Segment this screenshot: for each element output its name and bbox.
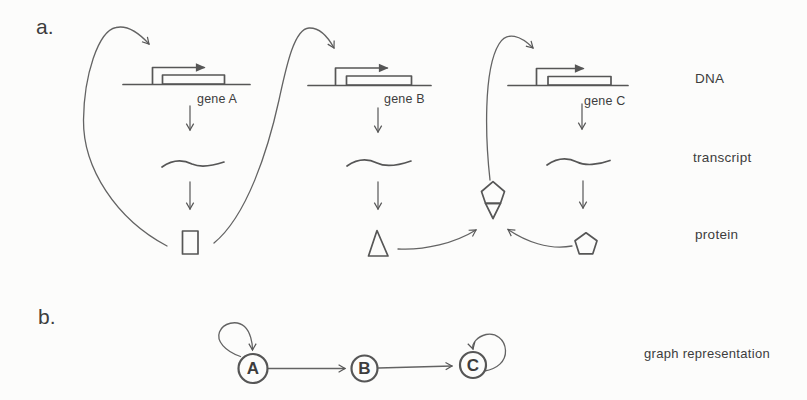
- gene-b-label: gene B: [384, 93, 425, 106]
- panel-b-label: b.: [38, 306, 56, 327]
- complex-triangle-shape: [486, 203, 501, 218]
- protein-b-shape: [369, 231, 389, 257]
- protein-a-to-gene-a-arrow: [83, 27, 167, 246]
- gene-b-box: [347, 76, 412, 85]
- row-label-dna: DNA: [695, 72, 724, 86]
- diagram-canvas: [0, 0, 807, 400]
- gene-c-box: [548, 77, 611, 86]
- gene-c-transcript-squiggle: [547, 159, 610, 165]
- gene-a-label: gene A: [197, 93, 237, 106]
- gene-b-transcript-squiggle: [347, 160, 411, 166]
- node-c-letter: C: [467, 355, 479, 375]
- gene-a-box: [163, 75, 225, 84]
- gene-c-label: gene C: [584, 95, 626, 108]
- gene-a-transcript-squiggle: [162, 161, 224, 167]
- complex-pentagon-shape: [482, 182, 505, 204]
- protein-a-shape: [183, 231, 199, 254]
- graph-caption: graph representation: [644, 347, 770, 360]
- edge-b-to-c: [379, 366, 453, 368]
- node-a-self-loop: [219, 323, 253, 357]
- complex-to-gene-c-arrow: [487, 36, 533, 180]
- node-a-letter: A: [247, 359, 259, 379]
- protein-c-shape: [575, 233, 597, 254]
- node-b-letter: B: [358, 359, 370, 379]
- protein-a-to-gene-b-arrow: [214, 28, 334, 243]
- figure-gene-network: a. b. gene A gene B gene C DNA transcrip…: [0, 0, 807, 400]
- panel-a-label: a.: [36, 16, 54, 37]
- protein-bc-complex: [482, 182, 505, 219]
- row-label-transcript: transcript: [693, 151, 752, 165]
- protein-b-to-complex-arrow: [398, 230, 476, 249]
- protein-c-to-complex-arrow: [508, 230, 572, 248]
- row-label-protein: protein: [695, 228, 738, 242]
